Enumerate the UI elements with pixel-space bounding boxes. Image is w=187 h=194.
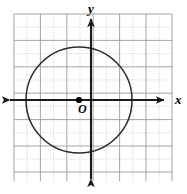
y-axis-label: y [86, 1, 94, 16]
x-axis-label: x [174, 92, 182, 107]
coordinate-plane-figure: x y O [0, 0, 187, 194]
figure-container: x y O [0, 0, 187, 194]
origin-label: O [78, 102, 87, 116]
